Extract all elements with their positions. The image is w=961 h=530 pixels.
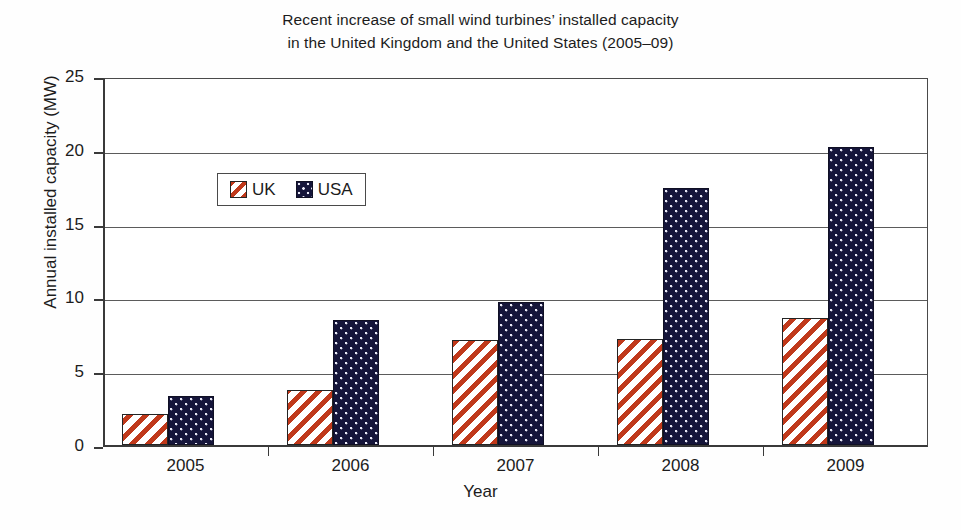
x-axis-tick-label-2007: 2007 (461, 456, 571, 476)
y-axis-tick (94, 152, 103, 154)
gridline (105, 153, 927, 154)
bar-uk-2006 (287, 390, 333, 445)
y-axis-tick (94, 78, 103, 80)
x-axis-tick-label-2009: 2009 (791, 456, 901, 476)
y-axis-tick-label: 10 (48, 288, 84, 308)
bar-uk-2005 (122, 414, 168, 445)
page-caption-fragment (0, 519, 961, 530)
x-axis-tick-label-2008: 2008 (626, 456, 736, 476)
legend-item-usa: USA (296, 181, 353, 198)
y-axis-tick-label: 25 (48, 67, 84, 87)
chart-title-line-2: in the United Kingdom and the United Sta… (0, 31, 961, 54)
y-axis-tick-label: 15 (48, 215, 84, 235)
uk-swatch-icon (230, 181, 247, 198)
x-axis-tick-label-2005: 2005 (131, 456, 241, 476)
usa-swatch-icon (296, 181, 313, 198)
bar-uk-2007 (452, 340, 498, 445)
bar-usa-2008 (663, 188, 709, 445)
bar-usa-2007 (498, 302, 544, 445)
x-axis-label: Year (0, 482, 961, 502)
bar-usa-2005 (168, 396, 214, 445)
chart-legend: UK USA (217, 173, 366, 206)
y-axis-tick (94, 447, 103, 449)
x-axis-tick (433, 447, 434, 456)
y-axis-tick (94, 226, 103, 228)
plot-area: UK USA (103, 78, 928, 447)
legend-label-usa: USA (318, 181, 353, 198)
chart-figure: Recent increase of small wind turbines’ … (0, 0, 961, 530)
y-axis-tick-label: 0 (48, 436, 84, 456)
legend-label-uk: UK (252, 181, 276, 198)
bar-usa-2009 (828, 147, 874, 445)
gridline (105, 227, 927, 228)
x-axis-tick (598, 447, 599, 456)
bar-uk-2009 (782, 318, 828, 445)
x-axis-tick (763, 447, 764, 456)
bar-uk-2008 (617, 339, 663, 445)
chart-title: Recent increase of small wind turbines’ … (0, 8, 961, 54)
x-axis-tick-label-2006: 2006 (296, 456, 406, 476)
y-axis-tick (94, 373, 103, 375)
y-axis-tick-label: 5 (48, 362, 84, 382)
x-axis-tick (268, 447, 269, 456)
bar-usa-2006 (333, 320, 379, 445)
chart-title-line-1: Recent increase of small wind turbines’ … (0, 8, 961, 31)
legend-item-uk: UK (230, 181, 276, 198)
y-axis-tick (94, 299, 103, 301)
y-axis-tick-label: 20 (48, 141, 84, 161)
